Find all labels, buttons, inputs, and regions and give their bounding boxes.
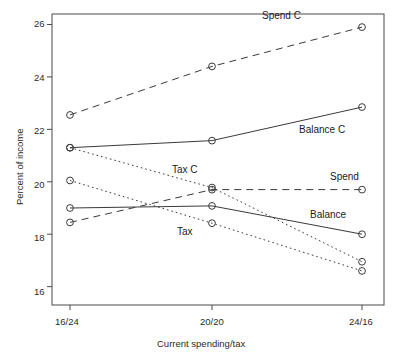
x-tick-label-24-16: 24/16: [349, 316, 373, 327]
series-label-spend: Spend: [330, 171, 359, 182]
series-label-spend-c: Spend C: [262, 10, 301, 21]
y-tick-label-20: 20: [34, 179, 45, 190]
series-label-tax-c: Tax C: [172, 164, 198, 175]
series-label-tax: Tax: [177, 226, 193, 237]
data-point-marker: [359, 258, 366, 265]
y-axis-title: Percent of income: [14, 128, 25, 205]
plot-frame: [52, 14, 384, 305]
data-point-marker: [359, 104, 366, 111]
data-point-marker: [67, 177, 74, 184]
series-line-spend-c: [70, 27, 362, 115]
series-line-tax-c: [70, 148, 362, 262]
line-chart: 26 24 22 20 18 16 16/24 20/20 24/16 Perc…: [0, 0, 402, 355]
series-label-balance: Balance: [310, 209, 346, 220]
data-point-marker: [67, 219, 74, 226]
y-tick-label-26: 26: [34, 18, 45, 29]
x-axis-title: Current spending/tax: [157, 338, 245, 349]
series-label-balance-c: Balance C: [299, 124, 345, 135]
x-tick-label-16-24: 16/24: [55, 316, 79, 327]
data-point-marker: [67, 112, 74, 119]
y-tick-label-18: 18: [34, 232, 45, 243]
data-point-marker: [359, 268, 366, 275]
y-tick-label-16: 16: [34, 286, 45, 297]
y-tick-label-24: 24: [34, 72, 45, 83]
y-tick-label-22: 22: [34, 125, 45, 136]
x-tick-label-20-20: 20/20: [200, 316, 224, 327]
